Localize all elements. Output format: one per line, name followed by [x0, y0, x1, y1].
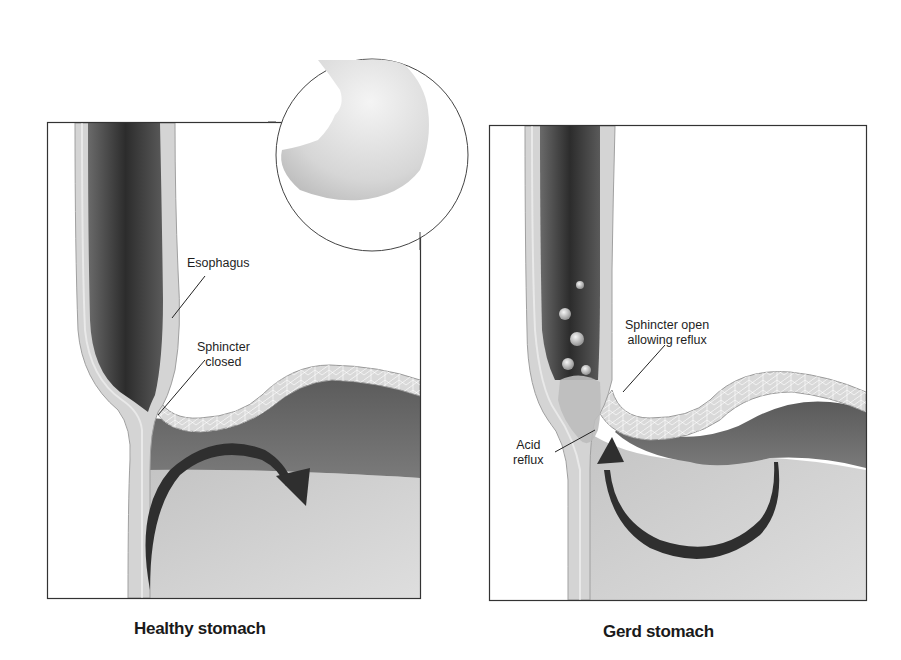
caption-healthy: Healthy stomach [134, 619, 266, 639]
bubble [562, 358, 574, 370]
label-sphincter-closed: Sphincter closed [197, 340, 250, 370]
sphincter-open-leader [623, 345, 665, 392]
bubble [576, 281, 584, 289]
gerd-panel [490, 126, 867, 601]
stomach-inset [268, 59, 468, 251]
esophagus-lumen [540, 126, 600, 380]
stomach-lining-lower [145, 470, 420, 598]
bubble [581, 365, 591, 375]
bubble [570, 332, 584, 346]
gerd-diagram [0, 0, 901, 660]
label-acid-reflux: Acid reflux [513, 438, 544, 468]
label-sphincter-open: Sphincter open allowing reflux [625, 318, 709, 348]
bubble [559, 308, 571, 320]
caption-gerd: Gerd stomach [603, 622, 714, 642]
label-esophagus: Esophagus [187, 256, 250, 271]
